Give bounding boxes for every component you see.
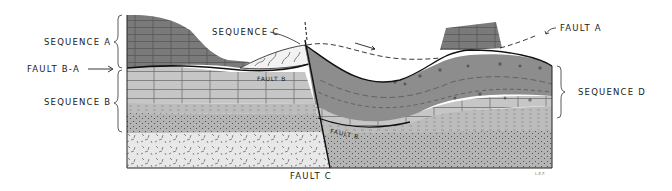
label-fault-c: FAULT C	[290, 171, 332, 181]
sequence-b-thin-layer	[127, 103, 317, 114]
left-block	[127, 15, 330, 168]
geologic-cross-section: SEQUENCE A FAULT B-A SEQUENCE B SEQUENCE…	[0, 0, 672, 191]
signature: L.E.F.	[535, 171, 545, 176]
label-sequence-d: SEQUENCE D	[578, 87, 646, 97]
label-sequence-c: SEQUENCE C	[212, 27, 279, 37]
sequence-b-brace	[114, 70, 122, 132]
label-sequence-b: SEQUENCE B	[44, 97, 111, 107]
sequence-b-brick-layer	[127, 66, 315, 104]
sequence-d-brace	[557, 66, 565, 118]
label-sequence-a: SEQUENCE A	[44, 37, 111, 47]
fault-a-trace	[307, 44, 440, 60]
sequence-a-layer	[127, 15, 250, 68]
fault-a-klippe	[440, 22, 502, 50]
fault-ba-arrow	[88, 66, 113, 72]
right-block	[305, 22, 552, 168]
label-fault-a: FAULT A	[560, 23, 602, 33]
sequence-b-stipple-layer	[127, 113, 322, 133]
label-fault-b-left: FAULT B	[257, 75, 286, 82]
label-fault-ba: FAULT B-A	[27, 64, 80, 74]
sequence-a-brace	[114, 15, 122, 68]
basement-layer	[127, 132, 330, 168]
